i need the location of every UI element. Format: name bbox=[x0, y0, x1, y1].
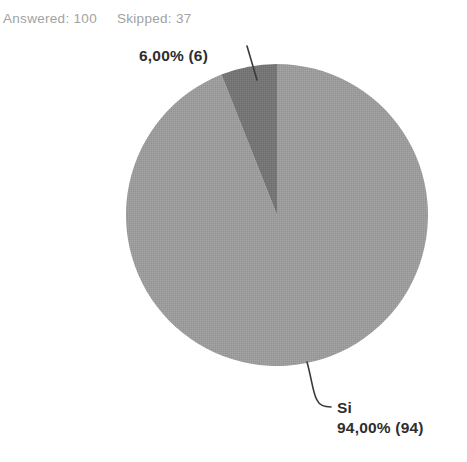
label-si-slice: Si 94,00% (94) bbox=[337, 398, 424, 438]
small-slice-value: 6,00% (6) bbox=[139, 47, 208, 64]
pie-texture-overlay bbox=[126, 64, 428, 366]
label-small-slice: 6,00% (6) bbox=[139, 46, 208, 66]
si-slice-name: Si bbox=[337, 398, 424, 418]
survey-results-chart-panel: Answered: 100 Skipped: 37 6,00% (6) Si 9… bbox=[0, 0, 467, 462]
pie-chart bbox=[0, 0, 467, 462]
leader-line-si bbox=[307, 362, 331, 407]
si-slice-value: 94,00% (94) bbox=[337, 418, 424, 438]
